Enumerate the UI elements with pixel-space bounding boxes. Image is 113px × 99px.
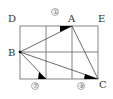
label-E: E [98, 13, 105, 24]
geometry-diagram: D A E B C ① ⑦ ⑨ [0, 0, 113, 99]
point-B-dot [19, 51, 22, 54]
grid [20, 26, 98, 79]
label-D: D [8, 13, 16, 24]
svg-text:⑨: ⑨ [79, 82, 84, 89]
segments [20, 26, 98, 79]
angle-1-wedge [60, 26, 72, 32]
svg-text:①: ① [53, 8, 58, 15]
label-C: C [99, 79, 107, 90]
marker-angle-1: ① [52, 8, 59, 16]
label-A: A [67, 13, 76, 24]
angle-7-wedge [38, 72, 46, 79]
marker-angle-7: ⑦ [32, 82, 39, 90]
svg-text:⑦: ⑦ [33, 82, 38, 89]
marker-angle-9: ⑨ [78, 82, 85, 90]
segment-B-bottom [20, 52, 46, 79]
label-B: B [8, 47, 15, 58]
